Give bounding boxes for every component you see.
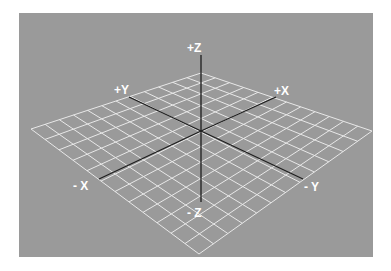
minus-x-label: - X	[73, 179, 88, 193]
plus-z-label: +Z	[187, 41, 201, 55]
axes-diagram: +Z - Z +Y - Y +X - X	[0, 0, 391, 271]
plus-x-label: +X	[274, 84, 289, 98]
minus-z-label: - Z	[187, 206, 202, 220]
minus-y-label: - Y	[304, 180, 319, 194]
plus-y-label: +Y	[114, 83, 129, 97]
